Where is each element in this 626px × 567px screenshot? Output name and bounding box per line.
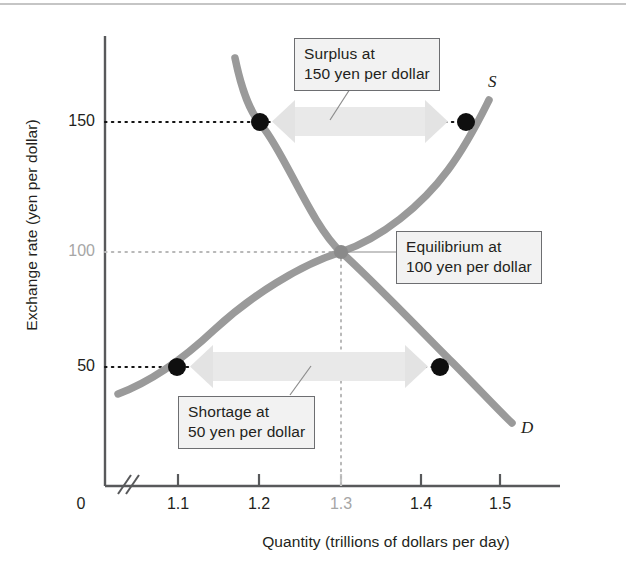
y-axis-title: Exchange rate (yen per dollar)	[23, 75, 41, 375]
marker-supply-at-150	[457, 113, 475, 131]
equilibrium-callout-line2: 100 yen per dollar	[406, 257, 532, 277]
surplus-callout-line2: 150 yen per dollar	[304, 64, 430, 84]
marker-demand-at-50	[431, 358, 449, 376]
figure-container: 150 100 50 0 1.1 1.2 1.3 1.4 1.5 Exchang…	[0, 0, 626, 567]
y-tick-label-150: 150	[40, 112, 95, 130]
shortage-callout-line2: 50 yen per dollar	[188, 422, 305, 442]
equilibrium-callout-line1: Equilibrium at	[406, 237, 532, 257]
shortage-callout-line1: Shortage at	[188, 402, 305, 422]
x-tick-label-1-5: 1.5	[480, 495, 520, 513]
shortage-callout: Shortage at 50 yen per dollar	[178, 396, 315, 449]
x-tick-label-0: 0	[66, 495, 96, 513]
surplus-arrow-band	[272, 100, 448, 143]
x-tick-label-1-2: 1.2	[239, 495, 279, 513]
y-tick-label-100: 100	[40, 242, 95, 260]
equilibrium-callout: Equilibrium at 100 yen per dollar	[396, 231, 542, 284]
marker-equilibrium	[334, 245, 348, 259]
x-tick-label-1-3: 1.3	[321, 495, 361, 513]
surplus-callout-line1: Surplus at	[304, 44, 430, 64]
x-axis-ticks	[178, 474, 500, 486]
marker-supply-at-50	[168, 358, 186, 376]
axis-break-icon	[118, 475, 139, 494]
demand-curve-label: D	[521, 418, 533, 438]
marker-demand-at-150	[251, 113, 269, 131]
x-tick-label-1-4: 1.4	[401, 495, 441, 513]
x-tick-label-1-1: 1.1	[158, 495, 198, 513]
supply-curve-label: S	[488, 72, 497, 92]
surplus-callout: Surplus at 150 yen per dollar	[294, 38, 440, 91]
shortage-arrow-band	[190, 345, 428, 388]
x-axis-title: Quantity (trillions of dollars per day)	[186, 533, 586, 551]
y-tick-label-50: 50	[40, 357, 95, 375]
